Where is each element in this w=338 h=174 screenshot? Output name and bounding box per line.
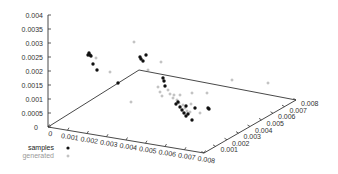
generated-point: [267, 82, 270, 85]
generated-point: [190, 103, 193, 106]
generated-point: [173, 94, 176, 97]
y-tick-label: 0.002: [232, 140, 250, 147]
z-tick-label: 0.0025: [22, 54, 44, 61]
sample-point: [86, 53, 89, 56]
x-tick-label: 0.008: [197, 155, 216, 165]
z-tick-label: 0.0005: [22, 110, 44, 117]
sample-point: [162, 79, 165, 82]
sample-point: [144, 53, 147, 56]
generated-point: [169, 93, 172, 96]
generated-point: [167, 89, 170, 92]
scatter-3d-plot: 00.00050.0010.00150.0020.00250.0030.0035…: [0, 0, 338, 174]
sample-points: [86, 51, 210, 121]
back-left-edge: [48, 70, 139, 127]
x-tick-label: 0.004: [119, 142, 138, 152]
generated-point: [147, 69, 150, 72]
sample-point: [163, 84, 166, 87]
tick-labels: 00.00050.0010.00150.0020.00250.0030.0035…: [22, 12, 319, 165]
sample-point: [207, 107, 210, 110]
sample-point: [95, 68, 98, 71]
generated-points: [95, 41, 270, 115]
y-tick-label: 0.004: [255, 127, 273, 134]
generated-point: [179, 94, 182, 97]
generated-point: [157, 86, 160, 89]
y-tick-label: 0.005: [267, 120, 285, 127]
generated-point: [130, 101, 133, 104]
y-tick-label: 0.006: [278, 113, 296, 120]
sample-point: [141, 59, 144, 62]
generated-point: [186, 110, 189, 113]
sample-point: [190, 118, 193, 121]
z-tick-label: 0.0035: [22, 26, 44, 33]
generated-point: [133, 41, 136, 44]
y-tick-label: 0.003: [244, 133, 262, 140]
z-tick-label: 0.002: [25, 68, 43, 75]
sample-point: [182, 111, 185, 114]
z-tick-label: 0.001: [25, 96, 43, 103]
generated-point: [231, 79, 234, 82]
generated-point: [95, 57, 98, 60]
legend-samples-label: samples: [28, 144, 55, 152]
x-tick-label: 0: [48, 130, 53, 138]
generated-point: [172, 97, 175, 100]
sample-point: [161, 76, 164, 79]
generated-point: [161, 95, 164, 98]
sample-point: [176, 100, 179, 103]
z-tick-label: 0.003: [25, 40, 43, 47]
x-tick-label: 0.002: [80, 135, 99, 145]
legend: samples generated: [22, 144, 69, 160]
sample-point: [116, 81, 119, 84]
legend-samples-marker: [66, 146, 69, 149]
y-tick-label: 0.001: [221, 146, 239, 153]
x-tick-label: 0.001: [61, 132, 80, 142]
sample-point: [91, 62, 94, 65]
y-tick-label: 0.007: [290, 107, 308, 114]
z-tick-label: 0.004: [25, 12, 43, 19]
generated-point: [159, 91, 162, 94]
x-tick-label: 0.005: [139, 145, 158, 155]
legend-generated-label: generated: [22, 152, 54, 160]
back-right-edge: [139, 70, 296, 100]
sample-point: [180, 108, 183, 111]
generated-point: [191, 92, 194, 95]
sample-point: [178, 105, 181, 108]
legend-generated-marker: [67, 155, 70, 158]
x-tick-label: 0.006: [158, 148, 177, 158]
generated-point: [160, 61, 163, 64]
sample-point: [193, 106, 196, 109]
generated-point: [182, 104, 185, 107]
sample-point: [184, 104, 187, 107]
generated-point: [109, 71, 112, 74]
generated-point: [199, 112, 202, 115]
sample-point: [186, 112, 189, 115]
z-tick-label: 0: [34, 124, 38, 131]
generated-point: [206, 92, 209, 95]
z-tick-label: 0.0015: [22, 82, 44, 89]
y-tick-label: 0.008: [301, 100, 319, 107]
x-tick-label: 0.007: [178, 151, 197, 161]
sample-point: [89, 54, 92, 57]
x-tick-label: 0.003: [100, 138, 119, 148]
